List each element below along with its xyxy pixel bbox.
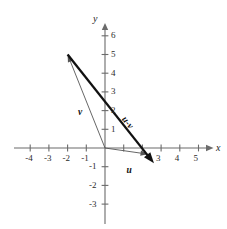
y-axis-label: y xyxy=(93,14,97,24)
x-tick-label: 5 xyxy=(194,154,199,163)
x-axis-label: x xyxy=(216,143,220,153)
vector-u-v-shaft xyxy=(68,55,148,156)
x-tick-label: -1 xyxy=(81,154,89,163)
x-tick-label: -2 xyxy=(63,154,71,163)
x-tick-label: 3 xyxy=(156,154,161,163)
y-tick-label: 4 xyxy=(111,69,116,78)
x-axis-arrowhead xyxy=(206,145,214,151)
vector-label-u: u xyxy=(127,166,132,176)
vector-label-v: v xyxy=(78,108,82,118)
y-tick-label: 3 xyxy=(111,87,116,96)
y-tick-label: 2 xyxy=(111,106,116,115)
y-tick-label: 5 xyxy=(111,50,116,59)
y-tick-label: 6 xyxy=(111,31,116,40)
x-tick-label: -3 xyxy=(44,154,52,163)
y-tick-label: -2 xyxy=(89,181,97,190)
vector-v-shaft xyxy=(70,60,105,148)
y-axis-arrowhead xyxy=(102,23,108,30)
x-tick-label: -4 xyxy=(25,154,33,163)
y-tick-label: 1 xyxy=(111,125,116,134)
vector-diagram-figure: x y -4-3-2-1345654321-1-2-3 vuu-v xyxy=(0,0,227,229)
y-tick-label: -3 xyxy=(89,200,97,209)
x-tick-label: 4 xyxy=(175,154,180,163)
y-tick-label: -1 xyxy=(89,162,97,171)
